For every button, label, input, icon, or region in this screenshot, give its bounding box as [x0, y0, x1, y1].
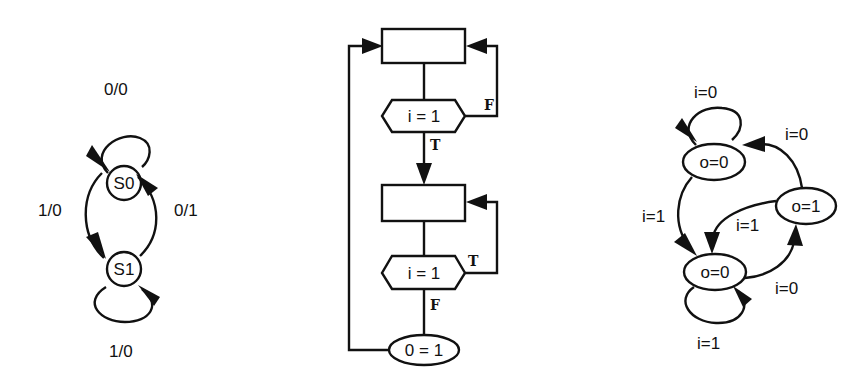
- edge-label-s0-s1: 1/0: [38, 201, 62, 220]
- edge-label-a-self: i=0: [694, 83, 717, 102]
- arrowhead-icon: [362, 38, 383, 54]
- output-label: 0 = 1: [405, 341, 443, 360]
- process-box-2: [382, 185, 465, 221]
- decision-2-true-label: T: [468, 253, 479, 269]
- arrowhead-icon: [466, 194, 487, 210]
- diagrams-canvas: 0/0 S0 1/0 0/1 S1 1/0 i = 1 F: [0, 0, 862, 374]
- edge-label-b-a: i=0: [785, 125, 808, 144]
- arrowhead-icon: [733, 286, 752, 307]
- state-s0-label: S0: [114, 174, 135, 193]
- flowchart-diagram: i = 1 F T i = 1 T F 0 = 1: [349, 29, 497, 365]
- state-c-label: o=0: [701, 263, 730, 282]
- edge-label-b-c: i=1: [736, 216, 759, 235]
- mealy-diagram: 0/0 S0 1/0 0/1 S1 1/0: [38, 80, 198, 361]
- state-a-label: o=0: [700, 153, 729, 172]
- edge-label-a-c: i=1: [642, 207, 665, 226]
- decision-2-label: i = 1: [408, 264, 441, 283]
- decision-1-label: i = 1: [408, 107, 441, 126]
- edge-label-c-self: i=1: [697, 334, 720, 353]
- process-box-1: [382, 29, 465, 63]
- edge-label-s1-self: 1/0: [109, 342, 133, 361]
- arrowhead-icon: [704, 232, 720, 254]
- arrowhead-icon: [86, 232, 106, 259]
- decision-2-false-label: F: [430, 297, 440, 313]
- edge-a-self: [689, 108, 741, 145]
- arrowhead-icon: [416, 163, 432, 185]
- edge-s1-self: [95, 287, 152, 322]
- edge-label-s0-self: 0/0: [104, 80, 128, 99]
- edge-c-b: [745, 242, 794, 278]
- arrowhead-icon: [675, 118, 697, 142]
- arrowhead-icon: [466, 38, 487, 54]
- decision-1-false-label: F: [484, 97, 494, 113]
- state-b-label: o=1: [792, 197, 821, 216]
- arrowhead-icon: [742, 136, 765, 152]
- edge-c-self: [685, 287, 744, 323]
- edge-label-s1-s0: 0/1: [174, 201, 198, 220]
- decision-1-true-label: T: [430, 137, 441, 153]
- edge-b-a: [760, 144, 802, 188]
- edge-label-c-b: i=0: [775, 279, 798, 298]
- arrowhead-icon: [674, 233, 697, 256]
- arrowhead-icon: [787, 224, 803, 246]
- state-s1-label: S1: [114, 260, 135, 279]
- arrowhead-icon: [138, 285, 160, 306]
- moore-diagram: i=0 o=0 i=0 i=1 i=1 o=1 i=0 o=0 i=1: [642, 83, 836, 353]
